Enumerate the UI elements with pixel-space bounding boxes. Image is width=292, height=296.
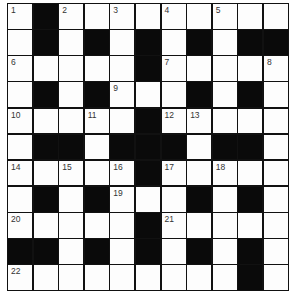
answer-cell[interactable] xyxy=(264,213,288,238)
answer-cell[interactable] xyxy=(238,109,262,134)
answer-cell[interactable]: 5 xyxy=(213,4,237,29)
clue-number: 22 xyxy=(11,267,20,276)
block-cell xyxy=(136,239,160,264)
answer-cell[interactable] xyxy=(85,4,109,29)
answer-cell[interactable] xyxy=(238,4,262,29)
answer-cell[interactable] xyxy=(264,161,288,186)
answer-cell[interactable] xyxy=(85,213,109,238)
answer-cell[interactable] xyxy=(8,82,32,107)
answer-cell[interactable] xyxy=(187,56,211,81)
answer-cell[interactable]: 16 xyxy=(110,161,134,186)
answer-cell[interactable] xyxy=(238,56,262,81)
answer-cell[interactable]: 4 xyxy=(162,4,186,29)
answer-cell[interactable] xyxy=(213,109,237,134)
answer-cell[interactable] xyxy=(85,135,109,160)
answer-cell[interactable] xyxy=(213,265,237,290)
answer-cell[interactable] xyxy=(59,82,83,107)
clue-number: 6 xyxy=(11,58,16,67)
answer-cell[interactable] xyxy=(238,213,262,238)
answer-cell[interactable] xyxy=(213,56,237,81)
answer-cell[interactable]: 6 xyxy=(8,56,32,81)
answer-cell[interactable] xyxy=(110,109,134,134)
answer-cell[interactable] xyxy=(238,161,262,186)
answer-cell[interactable] xyxy=(187,213,211,238)
answer-cell[interactable] xyxy=(85,161,109,186)
answer-cell[interactable] xyxy=(213,239,237,264)
answer-cell[interactable]: 22 xyxy=(8,265,32,290)
answer-cell[interactable]: 15 xyxy=(59,161,83,186)
block-cell xyxy=(34,4,58,29)
answer-cell[interactable] xyxy=(213,213,237,238)
answer-cell[interactable] xyxy=(136,4,160,29)
clue-number: 11 xyxy=(88,111,97,120)
answer-cell[interactable] xyxy=(187,4,211,29)
answer-cell[interactable]: 1 xyxy=(8,4,32,29)
answer-cell[interactable] xyxy=(59,265,83,290)
answer-cell[interactable] xyxy=(136,82,160,107)
clue-number: 21 xyxy=(165,215,174,224)
crossword-grid: 12345678910111213141516171819202122 xyxy=(7,3,289,291)
answer-cell[interactable]: 14 xyxy=(8,161,32,186)
answer-cell[interactable] xyxy=(8,30,32,55)
answer-cell[interactable] xyxy=(162,187,186,212)
answer-cell[interactable] xyxy=(136,265,160,290)
answer-cell[interactable]: 20 xyxy=(8,213,32,238)
answer-cell[interactable]: 12 xyxy=(162,109,186,134)
answer-cell[interactable] xyxy=(187,265,211,290)
answer-cell[interactable]: 8 xyxy=(264,56,288,81)
answer-cell[interactable] xyxy=(213,30,237,55)
answer-cell[interactable]: 10 xyxy=(8,109,32,134)
answer-cell[interactable] xyxy=(110,239,134,264)
clue-number: 12 xyxy=(165,111,174,120)
answer-cell[interactable] xyxy=(187,161,211,186)
answer-cell[interactable] xyxy=(136,187,160,212)
answer-cell[interactable] xyxy=(110,56,134,81)
answer-cell[interactable]: 3 xyxy=(110,4,134,29)
answer-cell[interactable]: 19 xyxy=(110,187,134,212)
answer-cell[interactable]: 13 xyxy=(187,109,211,134)
block-cell xyxy=(187,187,211,212)
answer-cell[interactable] xyxy=(213,82,237,107)
answer-cell[interactable] xyxy=(8,135,32,160)
answer-cell[interactable] xyxy=(187,135,211,160)
answer-cell[interactable] xyxy=(110,30,134,55)
block-cell xyxy=(187,82,211,107)
answer-cell[interactable] xyxy=(264,135,288,160)
answer-cell[interactable] xyxy=(162,82,186,107)
answer-cell[interactable] xyxy=(264,239,288,264)
answer-cell[interactable] xyxy=(34,56,58,81)
answer-cell[interactable] xyxy=(59,30,83,55)
answer-cell[interactable] xyxy=(162,265,186,290)
answer-cell[interactable] xyxy=(8,187,32,212)
answer-cell[interactable] xyxy=(59,109,83,134)
answer-cell[interactable] xyxy=(213,187,237,212)
block-cell xyxy=(264,30,288,55)
answer-cell[interactable] xyxy=(110,265,134,290)
answer-cell[interactable] xyxy=(162,30,186,55)
answer-cell[interactable]: 11 xyxy=(85,109,109,134)
answer-cell[interactable]: 2 xyxy=(59,4,83,29)
clue-number: 9 xyxy=(113,84,118,93)
answer-cell[interactable]: 21 xyxy=(162,213,186,238)
answer-cell[interactable] xyxy=(264,109,288,134)
answer-cell[interactable]: 18 xyxy=(213,161,237,186)
answer-cell[interactable] xyxy=(59,187,83,212)
answer-cell[interactable] xyxy=(34,265,58,290)
answer-cell[interactable] xyxy=(264,4,288,29)
answer-cell[interactable]: 17 xyxy=(162,161,186,186)
answer-cell[interactable] xyxy=(264,265,288,290)
answer-cell[interactable] xyxy=(34,213,58,238)
answer-cell[interactable] xyxy=(34,109,58,134)
answer-cell[interactable] xyxy=(59,239,83,264)
answer-cell[interactable] xyxy=(264,82,288,107)
answer-cell[interactable] xyxy=(162,239,186,264)
answer-cell[interactable] xyxy=(85,265,109,290)
answer-cell[interactable] xyxy=(264,187,288,212)
answer-cell[interactable] xyxy=(59,56,83,81)
answer-cell[interactable]: 9 xyxy=(110,82,134,107)
answer-cell[interactable] xyxy=(34,161,58,186)
answer-cell[interactable]: 7 xyxy=(162,56,186,81)
answer-cell[interactable] xyxy=(110,213,134,238)
answer-cell[interactable] xyxy=(59,213,83,238)
answer-cell[interactable] xyxy=(85,56,109,81)
